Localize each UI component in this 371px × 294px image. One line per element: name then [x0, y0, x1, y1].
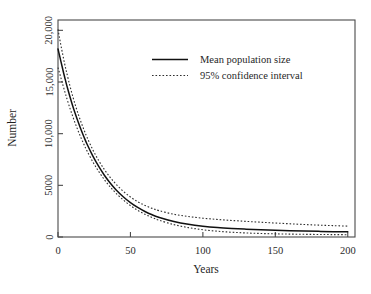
x-tick-label: 0 [55, 245, 60, 256]
x-axis-tick-labels: 050100150200 [55, 245, 355, 256]
x-tick-label: 50 [125, 245, 136, 256]
y-tick-label: 20,000 [44, 16, 55, 45]
legend-label-mean: Mean population size [200, 54, 291, 65]
x-tick-label: 100 [195, 245, 211, 256]
x-tick-label: 150 [267, 245, 283, 256]
y-tick-label: 0 [44, 234, 55, 239]
y-axis-title: Number [6, 109, 18, 147]
legend-label-ci: 95% confidence interval [200, 70, 303, 81]
figure-panel: 0500010,00015,00020,000 050100150200 Mea… [0, 0, 371, 294]
y-tick-label: 5000 [44, 175, 55, 196]
y-axis-tick-labels: 0500010,00015,00020,000 [44, 16, 55, 240]
plot-frame [58, 20, 355, 237]
x-axis-title: Years [193, 263, 219, 275]
x-tick-label: 200 [340, 245, 356, 256]
population-decline-chart: 0500010,00015,00020,000 050100150200 Mea… [0, 0, 371, 294]
y-tick-label: 15,000 [44, 68, 55, 97]
y-tick-label: 10,000 [44, 119, 55, 148]
